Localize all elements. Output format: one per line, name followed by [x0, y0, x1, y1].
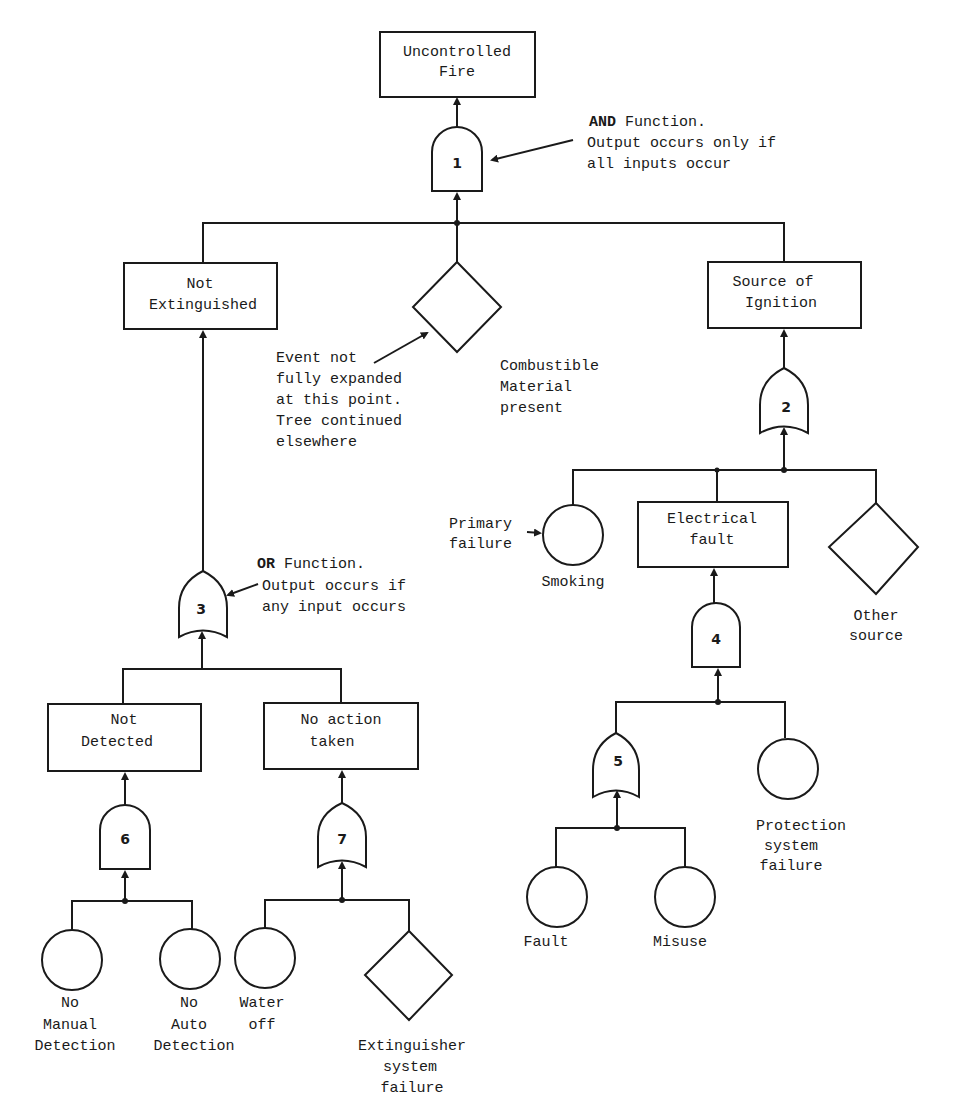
- no-manual-line1: No: [61, 995, 79, 1012]
- misuse-label: Misuse: [653, 934, 707, 951]
- no-action-line2: taken: [309, 734, 354, 751]
- not-extinguished-line1: Not: [186, 276, 213, 293]
- gate-3-number: 3: [196, 601, 206, 617]
- other-source-line2: source: [849, 628, 903, 645]
- top-event-label-line2: Fire: [439, 64, 475, 81]
- undeveloped-note-line1: Event not: [276, 350, 357, 367]
- or-gate-7: 7: [318, 803, 366, 867]
- and-note-line3: all inputs occur: [587, 156, 731, 173]
- and-note-rest: Function.: [616, 114, 706, 131]
- fault-label: Fault: [523, 934, 568, 951]
- undeveloped-note-line3: at this point.: [276, 392, 402, 409]
- or-note-line2: Output occurs if: [262, 578, 406, 595]
- or-gate-2: 2: [760, 368, 808, 433]
- undeveloped-note-line2: fully expanded: [276, 371, 402, 388]
- basic-event-no-auto-detection: No Auto Detection: [153, 929, 234, 1055]
- gate-6-number: 6: [120, 831, 130, 847]
- undeveloped-event-extinguisher-system-failure: Extinguisher system failure: [358, 931, 466, 1097]
- extinguisher-line1: Extinguisher: [358, 1038, 466, 1055]
- bus-level-4-gate5: [556, 828, 685, 867]
- no-manual-line2: Manual: [43, 1017, 97, 1034]
- or-keyword: OR: [257, 556, 275, 573]
- electrical-fault-line1: Electrical: [667, 511, 757, 528]
- or-note-line3: any input occurs: [262, 599, 406, 616]
- top-event-uncontrolled-fire: Uncontrolled Fire: [380, 32, 535, 97]
- and-gate-6: 6: [100, 805, 150, 869]
- undeveloped-event-combustible-material: Combustible Material present: [413, 262, 599, 417]
- svg-text:OR Function.: OR Function.: [257, 556, 365, 573]
- undeveloped-note-line4: Tree continued: [276, 413, 402, 430]
- electrical-fault-line2: fault: [689, 532, 734, 549]
- primary-failure-annotation: Primary failure: [449, 516, 512, 553]
- combustible-line2: Material: [500, 379, 572, 396]
- event-electrical-fault: Electrical fault: [638, 502, 788, 567]
- smoking-label: Smoking: [541, 574, 604, 591]
- or-note-rest: Function.: [275, 556, 365, 573]
- source-of-ignition-line2: Ignition: [745, 295, 817, 312]
- and-keyword: AND: [589, 114, 616, 131]
- fault-tree-diagram: Uncontrolled Fire 1 AND Function. Output…: [0, 0, 958, 1110]
- bus-level-2-left: [123, 669, 341, 704]
- no-auto-line1: No: [180, 995, 198, 1012]
- basic-event-protection-system-failure: Protection system failure: [756, 739, 846, 875]
- combustible-line3: present: [500, 400, 563, 417]
- and-gate-4: 4: [692, 603, 740, 667]
- or-gate-5: 5: [593, 733, 639, 797]
- no-auto-line3: Detection: [153, 1038, 234, 1055]
- undeveloped-note-line5: elsewhere: [276, 434, 357, 451]
- undeveloped-event-other-source: Other source: [829, 503, 918, 645]
- bus-level-3-no-action: [265, 900, 409, 931]
- basic-event-misuse: Misuse: [653, 867, 715, 951]
- svg-text:AND Function.: AND Function.: [589, 114, 706, 131]
- other-source-line1: Other: [853, 608, 898, 625]
- event-no-action-taken: No action taken: [264, 703, 418, 769]
- water-off-line2: off: [248, 1017, 275, 1034]
- gate-1-number: 1: [452, 155, 462, 171]
- extinguisher-line2: system: [383, 1059, 437, 1076]
- gate-5-number: 5: [613, 753, 623, 769]
- top-event-label-line1: Uncontrolled: [403, 44, 511, 61]
- no-auto-line2: Auto: [171, 1017, 207, 1034]
- event-source-of-ignition: Source of Ignition: [708, 262, 861, 328]
- gate-2-number: 2: [781, 399, 791, 415]
- event-not-extinguished: Not Extinguished: [124, 263, 277, 329]
- extinguisher-line3: failure: [380, 1080, 443, 1097]
- basic-event-no-manual-detection: No Manual Detection: [34, 930, 115, 1055]
- and-function-annotation: AND Function. Output occurs only if all …: [587, 114, 776, 173]
- combustible-line1: Combustible: [500, 358, 599, 375]
- no-manual-line3: Detection: [34, 1038, 115, 1055]
- or-annotation-arrow: [228, 584, 258, 595]
- no-action-line1: No action: [300, 712, 381, 729]
- water-off-line1: Water: [239, 995, 284, 1012]
- basic-event-water-off: Water off: [235, 928, 295, 1034]
- and-gate-1: 1: [432, 127, 482, 191]
- bus-level-1: [203, 223, 784, 263]
- gate-4-number: 4: [711, 631, 721, 647]
- bus-level-3-electrical: [616, 702, 785, 738]
- not-extinguished-line2: Extinguished: [149, 297, 257, 314]
- basic-event-smoking: Smoking: [541, 505, 604, 591]
- not-detected-line1: Not: [110, 712, 137, 729]
- junction-dot: [715, 468, 720, 473]
- primary-note-line2: failure: [449, 536, 512, 553]
- event-not-detected: Not Detected: [48, 704, 201, 771]
- and-annotation-arrow: [492, 140, 573, 160]
- protection-line2: system: [764, 838, 818, 855]
- protection-line3: failure: [759, 858, 822, 875]
- bus-level-3-not-detected: [72, 901, 192, 931]
- not-detected-line2: Detected: [81, 734, 153, 751]
- undeveloped-event-annotation: Event not fully expanded at this point. …: [276, 350, 402, 451]
- bus-level-2-right: [573, 470, 876, 505]
- or-gate-3: 3: [179, 571, 227, 637]
- source-of-ignition-line1: Source of: [732, 274, 813, 291]
- primary-note-line1: Primary: [449, 516, 512, 533]
- protection-line1: Protection: [756, 818, 846, 835]
- basic-event-fault: Fault: [523, 867, 587, 951]
- undeveloped-annotation-arrow: [374, 333, 427, 363]
- primary-failure-arrow: [527, 532, 540, 533]
- or-function-annotation: OR Function. Output occurs if any input …: [257, 556, 406, 616]
- gate-7-number: 7: [337, 831, 347, 847]
- and-note-line2: Output occurs only if: [587, 135, 776, 152]
